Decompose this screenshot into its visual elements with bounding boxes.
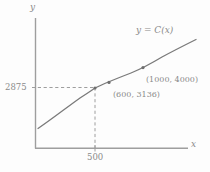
x-axis-label: x	[191, 139, 196, 149]
x-tick-label-500: 500	[87, 152, 103, 162]
cost-curve	[38, 40, 196, 129]
y-axis-label: y	[30, 2, 35, 12]
point-label-600-3136: (600, 3136)	[113, 90, 160, 99]
function-label: y = C(x)	[136, 25, 173, 35]
graph-canvas	[0, 0, 210, 172]
cost-function-graph: y x 2875 500 y = C(x) (600, 3136) (1000,…	[0, 0, 210, 172]
point-1000-4000	[141, 66, 144, 69]
point-label-1000-4000: (1000, 4000)	[146, 75, 198, 84]
point-500-2875	[93, 86, 96, 89]
y-tick-label-2875: 2875	[5, 82, 27, 92]
point-600-3136	[107, 81, 110, 84]
